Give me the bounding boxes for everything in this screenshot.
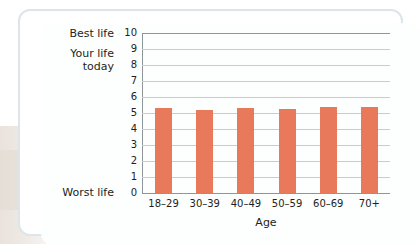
bar: [196, 110, 213, 193]
y-tick-label: 1: [115, 171, 137, 182]
y-tick-label: 3: [115, 139, 137, 150]
best-life-annotation: Best life: [34, 27, 114, 40]
y-axis-title-line-1: Your life: [26, 47, 114, 60]
y-axis-title-line-2: today: [26, 60, 114, 73]
x-tick-label: 18–29: [141, 198, 187, 209]
y-axis-title: Your life today: [26, 47, 114, 73]
y-tick-label: 10: [115, 27, 137, 38]
plot-area: 109876543210 18–2930–3940–4950–5960–6970…: [142, 33, 390, 193]
y-tick-label: 4: [115, 123, 137, 134]
gridline: [142, 193, 390, 194]
y-tick-label: 2: [115, 155, 137, 166]
y-tick-label: 9: [115, 43, 137, 54]
x-tick-label: 30–39: [182, 198, 228, 209]
x-axis-title: Age: [142, 216, 390, 229]
y-tick-label: 0: [115, 187, 137, 198]
bar: [361, 107, 378, 193]
x-tick-label: 50–59: [264, 198, 310, 209]
bar-series: [143, 33, 390, 193]
y-tick-label: 6: [115, 91, 137, 102]
worst-life-annotation: Worst life: [30, 186, 114, 199]
bar: [155, 108, 172, 193]
y-tick-label: 5: [115, 107, 137, 118]
x-tick-label: 60–69: [305, 198, 351, 209]
x-tick-label: 70+: [346, 198, 392, 209]
bar: [237, 108, 254, 193]
bar: [320, 107, 337, 193]
y-tick-label: 8: [115, 59, 137, 70]
x-tick-label: 40–49: [223, 198, 269, 209]
bar: [279, 109, 296, 193]
y-tick-label: 7: [115, 75, 137, 86]
